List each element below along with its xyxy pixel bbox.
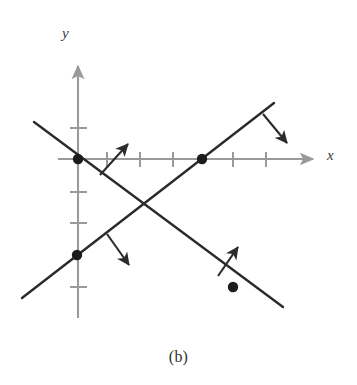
figure-container: y x (b) bbox=[0, 0, 357, 385]
ascending-line-group bbox=[22, 103, 287, 298]
x-axis-label: x bbox=[327, 148, 334, 163]
ascending-line-normal-arrow-lower bbox=[107, 234, 129, 265]
point-y-axis bbox=[72, 250, 82, 260]
y-axis-label: y bbox=[62, 26, 69, 41]
marked-points-group bbox=[72, 154, 238, 292]
point-origin bbox=[73, 154, 83, 164]
point-x-axis bbox=[197, 154, 207, 164]
point-lower-right bbox=[228, 282, 238, 292]
coordinate-plot bbox=[0, 0, 357, 385]
figure-caption: (b) bbox=[0, 348, 357, 366]
descending-line-group bbox=[34, 122, 283, 307]
ascending-line bbox=[22, 103, 274, 298]
ascending-line-normal-arrow-upper bbox=[263, 114, 287, 143]
descending-line bbox=[34, 122, 283, 307]
